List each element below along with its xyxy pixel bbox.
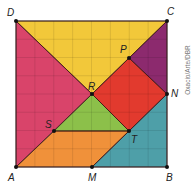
label-C: C [167,6,175,17]
label-B: B [166,172,173,183]
point-M-dot [90,165,94,169]
label-R: R [88,81,95,92]
point-R-dot [90,92,94,96]
label-P: P [120,44,127,55]
image-credit: Oxacio/Arte/DBR [184,45,191,95]
point-P-dot [127,56,131,60]
point-S-dot [52,129,56,133]
tangram-diagram: D C A B M N P R S T Oxacio/Arte/DBR [0,0,196,188]
label-S: S [45,119,52,130]
point-T-dot [127,129,131,133]
label-M: M [88,172,97,183]
point-D-dot [14,19,18,23]
point-A-dot [14,165,18,169]
point-B-dot [165,165,169,169]
label-N: N [171,88,179,99]
label-T: T [131,134,138,145]
label-D: D [7,7,14,18]
label-A: A [7,172,15,183]
point-N-dot [165,92,169,96]
point-C-dot [165,19,169,23]
